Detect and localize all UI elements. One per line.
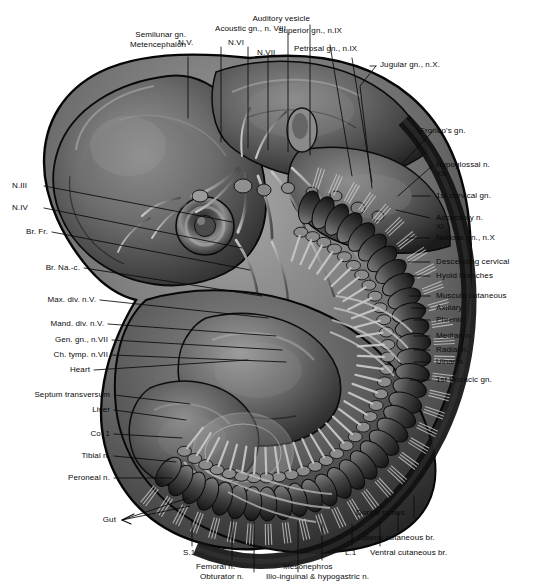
label-jugular-gn-n10: Jugular gn., n.X. <box>380 60 440 70</box>
label-n3-text: N.III <box>12 181 27 190</box>
label-n6: N.VI <box>228 38 244 48</box>
label-hyoid-branches-text: Hyoid branches <box>436 271 493 280</box>
label-ilio-inguinal-hypogastric-n: Ilio-inguinal & hypogastric n. <box>266 572 369 582</box>
label-superior-gn-n9: Superior gn., n.IX <box>278 26 342 36</box>
label-dorsal-ramus: Dorsal ramus <box>356 508 405 518</box>
label-n3: N.III <box>12 181 27 191</box>
label-co-1-text: Co. 1 <box>90 429 110 438</box>
label-septum-transversum-text: Septum transversum <box>34 390 110 399</box>
label-ch-tymp-n7-text: Ch. tymp. n.VII <box>54 350 108 359</box>
label-co-1: Co. 1 <box>0 429 110 439</box>
label-br-fr-text: Br. Fr. <box>26 227 48 236</box>
nerve-root <box>358 356 384 357</box>
label-gen-gn-n7: Gen. gn., n.VII <box>0 335 108 345</box>
label-br-na-c-text: Br. Na.-c. <box>46 263 80 272</box>
label-n4: N.IV <box>12 203 28 213</box>
auditory-vesicle-structure <box>287 108 317 152</box>
label-hyoid-branches: Hyoid branches <box>436 271 493 281</box>
label-mand-div-n5-text: Mand. div. n.V. <box>50 319 104 328</box>
anatomical-figure: Semilunar gn. Metencephalon N.V. N.VI N.… <box>0 0 539 582</box>
label-accessory-n-text: Accessory n. <box>436 213 483 222</box>
label-ventral-cutaneous-br-text: Ventral cutaneous br. <box>370 548 447 557</box>
label-axillary-text: Axillary <box>436 303 463 312</box>
label-lateral-cutaneous-br-text: Lateral cutaneous br. <box>358 533 435 542</box>
label-gut: Gut <box>0 515 116 525</box>
label-n7: N.VII <box>257 48 275 58</box>
label-accessory-numeral: XI <box>436 222 444 232</box>
label-heart-text: Heart <box>70 365 90 374</box>
spinal-ganglion <box>328 244 342 254</box>
label-froriep-gn-text: Froriep's gn. <box>420 126 466 135</box>
label-musculo-cutaneous: Musculo cutaneous <box>436 291 507 301</box>
label-first-thoracic-gn: 1st thoracic gn. <box>436 375 492 385</box>
label-radial-n-text: Radial n. <box>436 345 468 354</box>
label-hypoglossal-numeral-text: XII <box>436 169 446 178</box>
label-nodose-gn-n10: Nodose gn., n.X <box>436 233 495 243</box>
label-l1: L.1 <box>345 548 356 558</box>
label-tibial-n: Tibial n. <box>0 451 110 461</box>
label-l1-text: L.1 <box>345 548 356 557</box>
spinal-ganglion <box>339 441 353 451</box>
label-superior-gn-n9-text: Superior gn., n.IX <box>278 26 342 35</box>
spinal-ganglion <box>177 446 191 456</box>
label-peroneal-n-text: Peroneal n. <box>68 473 110 482</box>
label-hypoglossal-numeral: XII <box>436 169 446 179</box>
label-radial-n: Radial n. <box>436 345 468 355</box>
label-phrenic-text: Phrenic <box>436 315 464 324</box>
label-s1-text: S.1 <box>183 548 195 557</box>
nerve-root <box>265 448 266 474</box>
spinal-ganglion <box>369 401 383 411</box>
spinal-ganglion <box>374 389 388 399</box>
spinal-ganglion <box>377 315 391 325</box>
label-descending-cervical-text: Descending cervical <box>436 257 510 266</box>
cutaneous-branch <box>268 524 269 545</box>
label-max-div-n5-text: Max. div. n.V. <box>47 295 96 304</box>
label-first-cervical-gn: 1st cervical gn. <box>436 191 491 201</box>
label-jugular-gn-n10-text: Jugular gn., n.X. <box>380 60 440 69</box>
label-median-n-text: Median n. <box>436 331 472 340</box>
label-n5: N.V. <box>178 38 193 48</box>
label-obturator-n-text: Obturator n. <box>200 572 244 581</box>
label-ilio-inguinal-hypogastric-n-text: Ilio-inguinal & hypogastric n. <box>266 572 369 581</box>
label-br-na-c: Br. Na.-c. <box>0 263 80 273</box>
label-femoral-n: Femoral n. <box>196 562 235 572</box>
label-phrenic: Phrenic <box>436 315 464 325</box>
spinal-ganglion <box>377 377 391 387</box>
label-auditory-vesicle: Auditory vesicle <box>180 14 310 24</box>
label-septum-transversum: Septum transversum <box>0 390 110 400</box>
spinal-ganglion <box>337 252 351 262</box>
label-descending-cervical: Descending cervical <box>436 257 510 267</box>
label-n6-text: N.VI <box>228 38 244 47</box>
label-br-fr: Br. Fr. <box>0 227 48 237</box>
label-ulnar-n: Ulnar n. <box>436 357 465 367</box>
label-gut-text: Gut <box>103 515 116 524</box>
label-first-thoracic-gn-text: 1st thoracic gn. <box>436 375 492 384</box>
label-accessory-numeral-text: XI <box>436 222 444 231</box>
label-axillary: Axillary <box>436 303 463 313</box>
label-metencephalon: Metencephalon <box>58 40 186 50</box>
label-femoral-n-text: Femoral n. <box>196 562 235 571</box>
label-dorsal-ramus-text: Dorsal ramus <box>356 508 405 517</box>
label-obturator-n: Obturator n. <box>200 572 244 582</box>
label-mand-div-n5: Mand. div. n.V. <box>0 319 104 329</box>
label-acoustic-gn-n8: Acoustic gn., n. VIII <box>150 24 286 34</box>
label-first-cervical-gn-text: 1st cervical gn. <box>436 191 491 200</box>
label-max-div-n5: Max. div. n.V. <box>0 295 96 305</box>
label-mesonephros-text: Mesonephros <box>283 562 333 571</box>
label-auditory-vesicle-text: Auditory vesicle <box>252 14 310 23</box>
label-petrosal-gn-n9: Petrosal gn., n.IX <box>294 44 357 54</box>
label-musculo-cutaneous-text: Musculo cutaneous <box>436 291 507 300</box>
label-n5-text: N.V. <box>178 38 193 47</box>
label-mesonephros: Mesonephros <box>283 562 333 572</box>
label-tibial-n-text: Tibial n. <box>81 451 110 460</box>
label-n4-text: N.IV <box>12 203 28 212</box>
label-petrosal-gn-n9-text: Petrosal gn., n.IX <box>294 44 357 53</box>
label-ventral-cutaneous-br: Ventral cutaneous br. <box>370 548 447 558</box>
label-lateral-cutaneous-br: Lateral cutaneous br. <box>358 533 435 543</box>
label-heart: Heart <box>0 365 90 375</box>
label-liver-text: Liver <box>92 405 110 414</box>
label-froriep-gn: Froriep's gn. <box>420 126 466 136</box>
label-ch-tymp-n7: Ch. tymp. n.VII <box>0 350 108 360</box>
label-gen-gn-n7-text: Gen. gn., n.VII <box>55 335 108 344</box>
label-acoustic-gn-n8-text: Acoustic gn., n. VIII <box>215 24 286 33</box>
